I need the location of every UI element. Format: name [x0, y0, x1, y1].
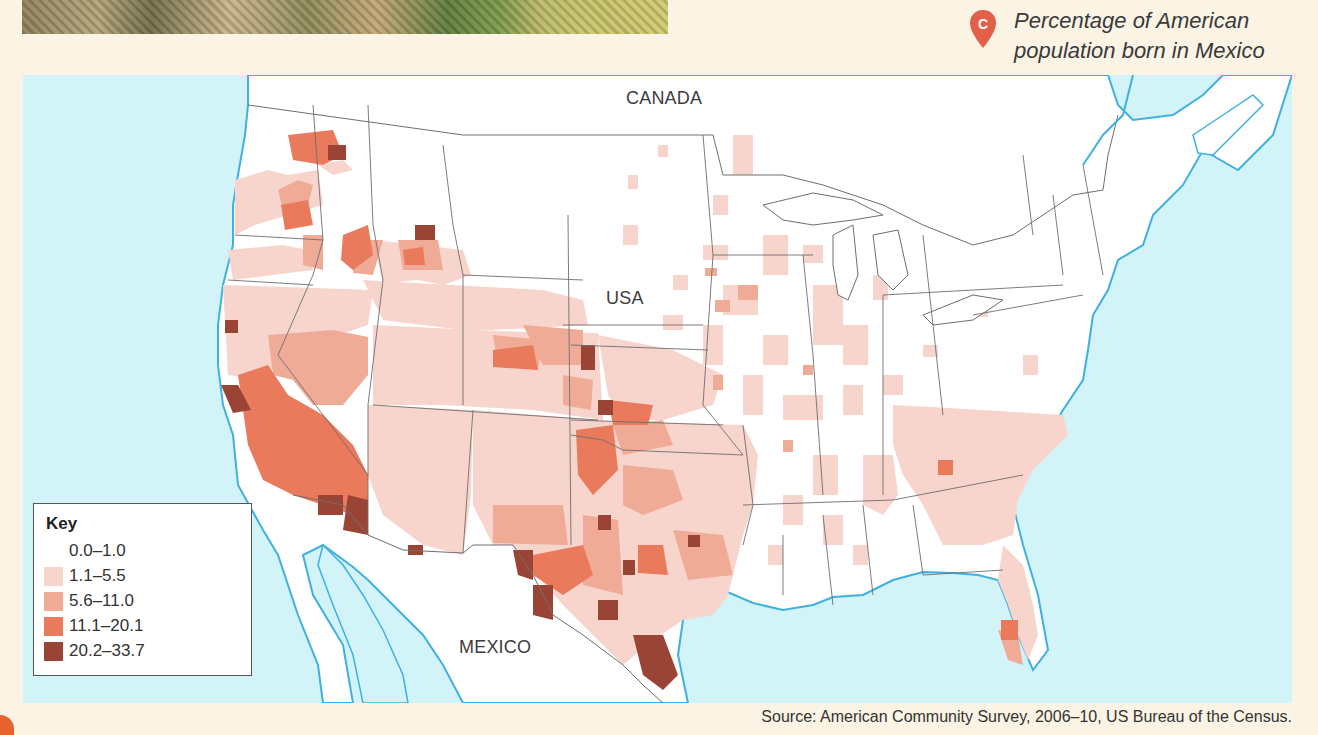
- landscape-photo-strip: [22, 0, 668, 34]
- label-canada: CANADA: [626, 88, 702, 109]
- svg-text:C: C: [978, 16, 988, 32]
- legend-item: 5.6–11.0: [44, 590, 134, 612]
- legend-item: 1.1–5.5: [44, 565, 126, 587]
- page-corner-accent: [0, 715, 14, 735]
- legend-item: 11.1–20.1: [44, 615, 143, 637]
- label-usa: USA: [606, 288, 644, 309]
- map-marker-icon: C: [968, 9, 998, 49]
- legend-swatch-bin-4: [44, 642, 63, 661]
- title-line-2: population born in Mexico: [1014, 36, 1265, 66]
- legend-swatch-bin-3: [44, 617, 63, 636]
- legend-item: 20.2–33.7: [44, 640, 145, 662]
- label-mexico: MEXICO: [459, 637, 531, 658]
- legend-swatch-bin-0: [44, 542, 63, 561]
- map-legend: Key 0.0–1.0 1.1–5.5 5.6–11.0 11.1–20.1 2…: [33, 503, 252, 676]
- source-caption: Source: American Community Survey, 2006–…: [761, 708, 1292, 726]
- title-line-1: Percentage of American: [1014, 6, 1265, 36]
- legend-swatch-bin-1: [44, 567, 63, 586]
- legend-title: Key: [46, 514, 77, 534]
- legend-item: 0.0–1.0: [44, 540, 126, 562]
- legend-swatch-bin-2: [44, 592, 63, 611]
